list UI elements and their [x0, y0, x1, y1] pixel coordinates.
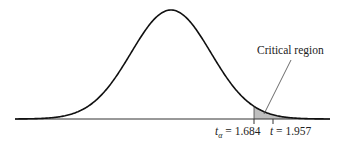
t-distribution-chart — [0, 0, 341, 144]
t-stat-value: = 1.957 — [273, 125, 311, 137]
critical-region-label: Critical region — [257, 44, 324, 56]
t-alpha-label: tα = 1.684 — [215, 125, 261, 140]
t-alpha-value: = 1.684 — [222, 125, 260, 137]
t-stat-label: t = 1.957 — [270, 125, 311, 137]
callout-pointer — [264, 60, 291, 114]
density-curve — [15, 10, 330, 119]
